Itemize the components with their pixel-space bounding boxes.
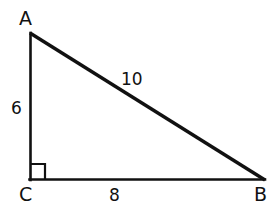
side-length-label-horizontal-leg: 8: [109, 187, 120, 204]
right-angle-marker: [30, 164, 45, 179]
side-length-label-vertical-leg: 6: [11, 100, 22, 117]
side-length-label-hypotenuse: 10: [121, 71, 143, 88]
triangle-drawing: [0, 0, 277, 218]
geometry-figure: A C B 6 8 10: [0, 0, 277, 218]
vertex-label-b: B: [254, 185, 267, 204]
vertex-label-c: C: [19, 185, 32, 204]
triangle-side-hypotenuse: [30, 33, 265, 180]
vertex-label-a: A: [19, 9, 32, 28]
